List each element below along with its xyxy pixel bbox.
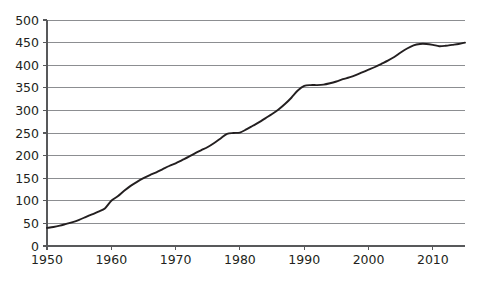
y-tick-label-450: 450 [15, 35, 39, 50]
y-tick-label-350: 350 [15, 80, 39, 95]
y-tick-label-100: 100 [15, 193, 39, 208]
series-group [47, 43, 465, 228]
x-tick-label-1960: 1960 [95, 252, 127, 267]
y-tick-label-500: 500 [15, 13, 39, 28]
y-tick-label-150: 150 [15, 171, 39, 186]
y-tick-label-250: 250 [15, 126, 39, 141]
y-axis-group [43, 20, 47, 246]
y-tick-labels-group: 050100150200250300350400450500 [15, 13, 39, 254]
x-tick-label-1950: 1950 [31, 252, 63, 267]
x-tick-label-1970: 1970 [160, 252, 192, 267]
x-tick-label-1990: 1990 [288, 252, 320, 267]
x-tick-labels-group: 1950196019701980199020002010 [31, 252, 449, 267]
y-tick-label-200: 200 [15, 148, 39, 163]
y-tick-label-400: 400 [15, 58, 39, 73]
x-axis-group [47, 246, 465, 250]
chart-canvas: 050100150200250300350400450500 195019601… [0, 0, 478, 281]
series-1-line [47, 43, 465, 228]
x-tick-label-1980: 1980 [224, 252, 256, 267]
x-tick-label-2010: 2010 [417, 252, 449, 267]
y-tick-label-300: 300 [15, 103, 39, 118]
line-chart-figure: 050100150200250300350400450500 195019601… [0, 0, 478, 281]
x-tick-label-2000: 2000 [353, 252, 385, 267]
y-tick-label-50: 50 [23, 216, 39, 231]
